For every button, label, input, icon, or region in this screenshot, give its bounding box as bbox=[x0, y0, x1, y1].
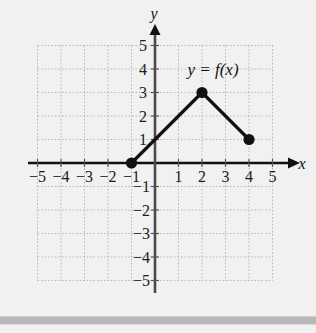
x-tick-label: 3 bbox=[222, 168, 230, 185]
y-tick-label: −3 bbox=[133, 225, 150, 242]
y-tick-label: 4 bbox=[139, 61, 147, 78]
bottom-divider-band bbox=[0, 316, 316, 325]
data-point-marker bbox=[243, 134, 254, 145]
x-tick-label: 1 bbox=[175, 168, 183, 185]
x-tick-label: 5 bbox=[269, 168, 277, 185]
x-tick-label: −5 bbox=[29, 168, 46, 185]
y-tick-label: −2 bbox=[133, 202, 150, 219]
y-tick-label: −5 bbox=[133, 272, 150, 289]
y-tick-label: −1 bbox=[133, 178, 150, 195]
y-axis-label: y bbox=[148, 5, 158, 23]
x-tick-label: −3 bbox=[76, 168, 93, 185]
data-point-marker bbox=[126, 157, 137, 168]
y-tick-label: 3 bbox=[139, 84, 147, 101]
x-axis-label: x bbox=[297, 155, 305, 172]
x-tick-label: −4 bbox=[52, 168, 69, 185]
x-tick-label: −2 bbox=[99, 168, 116, 185]
data-point-marker bbox=[196, 87, 207, 98]
function-graph-plot: −5 −4 −3 −2 −1 1 2 3 4 5 5 4 3 2 1 −1 −2… bbox=[0, 0, 316, 333]
x-tick-label: 2 bbox=[198, 168, 206, 185]
y-tick-label: 1 bbox=[139, 131, 147, 148]
y-tick-label: 5 bbox=[139, 37, 147, 54]
graph-figure: −5 −4 −3 −2 −1 1 2 3 4 5 5 4 3 2 1 −1 −2… bbox=[0, 0, 316, 333]
y-tick-label: −4 bbox=[133, 249, 150, 266]
plot-background bbox=[0, 0, 316, 333]
y-tick-label: 2 bbox=[139, 108, 147, 125]
function-annotation-label: y = f(x) bbox=[185, 60, 238, 79]
x-tick-label: 4 bbox=[245, 168, 253, 185]
